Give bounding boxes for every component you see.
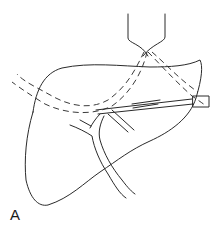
panel-label: A [10, 206, 20, 223]
bile-ducts [70, 110, 135, 198]
ultrasound-beam [12, 52, 205, 113]
ultrasound-probe [128, 14, 165, 56]
liver-procedure-diagram [0, 0, 224, 236]
